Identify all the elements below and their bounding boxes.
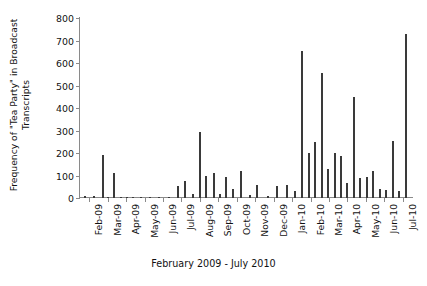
bar bbox=[205, 176, 207, 199]
bar bbox=[113, 173, 115, 198]
x-tick-label: Oct-09 bbox=[241, 204, 252, 235]
y-tick-mark bbox=[76, 198, 80, 199]
x-tick-mark bbox=[200, 198, 201, 202]
x-tick-mark bbox=[366, 198, 367, 202]
bar bbox=[340, 156, 342, 198]
x-tick-label: Jul-10 bbox=[407, 204, 418, 230]
x-tick-label: Mar-09 bbox=[112, 204, 123, 236]
bar bbox=[366, 177, 368, 198]
y-tick-mark bbox=[76, 41, 80, 42]
y-tick-mark bbox=[76, 153, 80, 154]
x-tick-label: Apr-10 bbox=[351, 204, 362, 234]
x-tick-label: Dec-09 bbox=[278, 204, 289, 237]
bar bbox=[168, 197, 170, 198]
x-tick-mark bbox=[126, 198, 127, 202]
chart-figure: Frequency of "Tea Party" in Broadcast Tr… bbox=[0, 0, 427, 286]
x-tick-mark bbox=[255, 198, 256, 202]
bar bbox=[379, 189, 381, 198]
bar bbox=[149, 197, 151, 198]
y-tick-mark bbox=[76, 108, 80, 109]
bar bbox=[225, 177, 227, 198]
x-tick-mark bbox=[384, 198, 385, 202]
bar bbox=[140, 197, 142, 198]
x-tick-label: Jun-09 bbox=[167, 204, 178, 233]
x-tick-label: Feb-09 bbox=[93, 204, 104, 235]
x-tick-mark bbox=[89, 198, 90, 202]
x-tick-mark bbox=[218, 198, 219, 202]
bar bbox=[321, 73, 323, 198]
bar bbox=[267, 196, 269, 198]
x-tick-label: Mar-10 bbox=[333, 204, 344, 236]
bar bbox=[232, 189, 234, 198]
x-tick-label: Jan-10 bbox=[296, 204, 307, 233]
x-tick-mark bbox=[347, 198, 348, 202]
x-tick-mark bbox=[274, 198, 275, 202]
bar bbox=[102, 155, 104, 198]
bar bbox=[213, 173, 215, 198]
y-tick-mark bbox=[76, 131, 80, 132]
x-tick-mark bbox=[329, 198, 330, 202]
bar bbox=[346, 183, 348, 198]
bar bbox=[219, 194, 221, 198]
x-tick-label: Sep-09 bbox=[222, 204, 233, 236]
x-tick-label: May-09 bbox=[149, 204, 160, 238]
bar bbox=[132, 197, 134, 198]
x-tick-mark bbox=[181, 198, 182, 202]
bar bbox=[405, 34, 407, 198]
x-tick-label: Feb-10 bbox=[315, 204, 326, 235]
y-axis-title-line-1: Frequency of "Tea Party" in Broadcast bbox=[8, 19, 19, 192]
x-tick-label: May-10 bbox=[370, 204, 381, 238]
bar bbox=[93, 196, 95, 198]
bar bbox=[256, 185, 258, 199]
y-axis-title-line-2: Transcripts bbox=[20, 19, 32, 192]
x-tick-mark bbox=[311, 198, 312, 202]
y-tick-mark bbox=[76, 176, 80, 177]
bar bbox=[385, 190, 387, 198]
bar bbox=[294, 191, 296, 198]
x-tick-mark bbox=[145, 198, 146, 202]
bar bbox=[249, 195, 251, 198]
x-tick-mark bbox=[237, 198, 238, 202]
plot-area: 0100200300400500600700800 Feb-09Mar-09Ap… bbox=[80, 18, 412, 198]
bar bbox=[334, 153, 336, 198]
bar bbox=[314, 142, 316, 198]
bar bbox=[177, 186, 179, 198]
bar bbox=[192, 194, 194, 198]
x-tick-label: Apr-09 bbox=[130, 204, 141, 234]
x-tick-mark bbox=[403, 198, 404, 202]
x-tick-label: Jun-10 bbox=[388, 204, 399, 233]
x-tick-label: Nov-09 bbox=[259, 204, 270, 237]
y-tick-mark bbox=[76, 18, 80, 19]
bar bbox=[158, 197, 160, 198]
bar bbox=[276, 186, 278, 198]
bar bbox=[308, 153, 310, 198]
x-tick-mark bbox=[108, 198, 109, 202]
x-tick-mark bbox=[292, 198, 293, 202]
y-tick-mark bbox=[76, 63, 80, 64]
bar bbox=[184, 181, 186, 198]
y-tick-mark bbox=[76, 86, 80, 87]
bar bbox=[286, 185, 288, 199]
y-axis-title: Frequency of "Tea Party" in Broadcast Tr… bbox=[0, 0, 40, 210]
x-axis-title: February 2009 - July 2010 bbox=[0, 258, 427, 269]
bar bbox=[199, 132, 201, 198]
bar bbox=[398, 191, 400, 198]
bar bbox=[120, 197, 122, 198]
bar bbox=[240, 171, 242, 198]
bar bbox=[301, 51, 303, 198]
bar bbox=[372, 171, 374, 198]
bar bbox=[353, 97, 355, 198]
x-tick-label: Aug-09 bbox=[204, 204, 215, 237]
bar bbox=[359, 178, 361, 198]
x-tick-label: Jul-09 bbox=[185, 204, 196, 230]
bar bbox=[84, 196, 86, 198]
bar bbox=[392, 141, 394, 198]
bar bbox=[327, 169, 329, 198]
x-tick-mark bbox=[163, 198, 164, 202]
